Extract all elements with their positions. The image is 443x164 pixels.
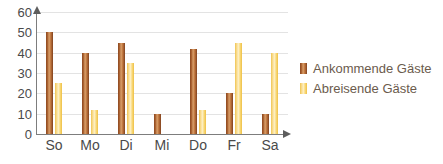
x-axis-tick-label: Mo xyxy=(70,138,110,153)
bar-group xyxy=(36,12,288,134)
y-axis-tick-label: 40 xyxy=(2,47,32,60)
y-axis-tick-label: 10 xyxy=(2,108,32,121)
legend-item[interactable]: Abreisende Gäste xyxy=(300,79,443,97)
y-axis-tick-label: 60 xyxy=(2,6,32,19)
plot-area xyxy=(36,12,288,134)
bar-do-series-1 xyxy=(199,110,206,134)
y-axis-tick-label: 20 xyxy=(2,87,32,100)
x-axis-line xyxy=(36,134,284,135)
legend-label: Ankommende Gäste xyxy=(313,62,432,75)
bar-mi-series-0 xyxy=(154,114,161,134)
bar-chart: 0102030405060 SoMoDiMiDoFrSa Ankommende … xyxy=(0,0,443,164)
y-axis-tick-label: 50 xyxy=(2,26,32,39)
bar-di-series-1 xyxy=(127,63,134,134)
y-axis-arrow-icon xyxy=(33,6,41,14)
y-axis-ticks: 0102030405060 xyxy=(0,12,32,134)
legend: Ankommende GästeAbreisende Gäste xyxy=(300,59,443,99)
bar-do-series-0 xyxy=(190,49,197,134)
bar-mo-series-1 xyxy=(91,110,98,134)
y-axis-line xyxy=(36,14,37,134)
x-axis-tick-label: Sa xyxy=(250,138,290,153)
x-axis-ticks: SoMoDiMiDoFrSa xyxy=(36,138,288,162)
bar-so-series-1 xyxy=(55,83,62,134)
x-axis-tick-label: Di xyxy=(106,138,146,153)
bar-fr-series-1 xyxy=(235,43,242,135)
bar-mo-series-0 xyxy=(82,53,89,134)
x-axis-tick-label: So xyxy=(34,138,74,153)
y-axis-tick-label: 0 xyxy=(2,128,32,141)
bar-so-series-0 xyxy=(46,32,53,134)
bar-di-series-0 xyxy=(118,43,125,135)
bar-fr-series-0 xyxy=(226,93,233,134)
legend-label: Abreisende Gäste xyxy=(313,82,417,95)
x-axis-arrow-icon xyxy=(283,130,291,138)
x-axis-tick-label: Fr xyxy=(214,138,254,153)
x-axis-tick-label: Mi xyxy=(142,138,182,153)
legend-item[interactable]: Ankommende Gäste xyxy=(300,59,443,77)
legend-swatch-icon xyxy=(300,63,307,74)
x-axis-tick-label: Do xyxy=(178,138,218,153)
y-axis-tick-label: 30 xyxy=(2,67,32,80)
bar-sa-series-1 xyxy=(271,53,278,134)
bar-sa-series-0 xyxy=(262,114,269,134)
legend-swatch-icon xyxy=(300,83,307,94)
